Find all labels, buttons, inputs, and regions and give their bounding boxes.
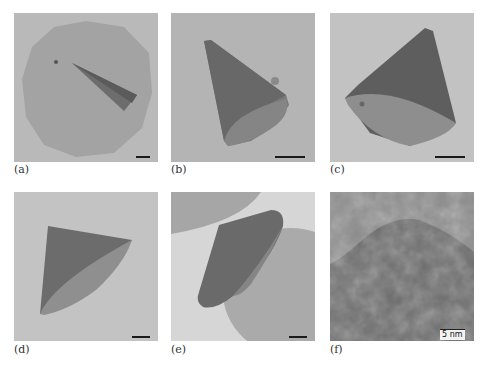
panel-label-f: (f) <box>330 343 343 356</box>
panel-label-b: (b) <box>171 163 187 176</box>
panel-e-image <box>171 192 315 341</box>
scale-bar <box>435 156 465 158</box>
tem-image-b <box>171 13 315 162</box>
panel-label-a: (a) <box>14 163 29 176</box>
panel-label-d: (d) <box>14 343 30 356</box>
panel-f-image: 5 nm <box>330 192 474 341</box>
scale-bar <box>136 156 150 158</box>
panel-label-e: (e) <box>171 343 186 356</box>
scale-bar-label: 5 nm <box>440 329 465 340</box>
scale-bar <box>275 156 305 158</box>
tem-image-d <box>14 192 158 341</box>
tem-image-a <box>14 13 158 162</box>
panel-b-image <box>171 13 315 162</box>
panel-a-image <box>14 13 158 162</box>
panel-c-image <box>330 13 474 162</box>
tem-image-c <box>330 13 474 162</box>
panel-label-c: (c) <box>330 163 345 176</box>
tem-image-e <box>171 192 315 341</box>
scale-bar <box>132 336 150 338</box>
panel-d-image <box>14 192 158 341</box>
tem-image-f <box>330 192 474 341</box>
scale-bar <box>289 336 307 338</box>
